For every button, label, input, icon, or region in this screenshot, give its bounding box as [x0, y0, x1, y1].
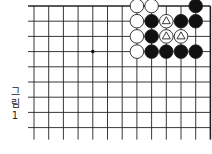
white-stone: [130, 45, 144, 59]
white-stone: [130, 30, 144, 44]
black-stone: [145, 45, 159, 59]
black-stone: [174, 14, 188, 28]
figure-caption: 그 림 1: [8, 86, 22, 122]
black-stone: [189, 45, 203, 59]
caption-char: 그: [8, 86, 22, 98]
black-stone: [189, 0, 203, 13]
go-board: [0, 0, 212, 154]
caption-char: 1: [8, 110, 22, 122]
white-stone: [145, 0, 159, 13]
black-stone: [145, 30, 159, 44]
black-stone: [145, 14, 159, 28]
white-stone: [130, 0, 144, 13]
caption-char: 림: [8, 98, 22, 110]
black-stone: [160, 45, 174, 59]
black-stone: [189, 14, 203, 28]
black-stone: [174, 45, 188, 59]
white-stone: [130, 14, 144, 28]
star-point: [91, 50, 95, 54]
